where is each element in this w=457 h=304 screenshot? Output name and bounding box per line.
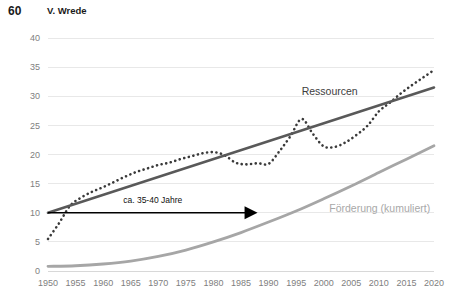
y-tick-label: 10 xyxy=(30,208,40,218)
page-number: 60 xyxy=(8,4,21,18)
y-axis-tick-labels: 0510152025303540 xyxy=(30,33,40,276)
chart-figure: 0510152025303540 19501955196019651970197… xyxy=(0,22,457,304)
annotation-arrowhead xyxy=(245,206,258,219)
series-label-0: Ressourcen xyxy=(302,85,358,97)
y-tick-label: 30 xyxy=(30,91,40,101)
resources-production-line-chart: 0510152025303540 19501955196019651970197… xyxy=(0,22,457,304)
series-inline-labels: RessourcenFörderung (kumuliert) xyxy=(302,85,431,214)
x-tick-label: 1980 xyxy=(203,278,223,288)
y-tick-label: 25 xyxy=(30,121,40,131)
x-tick-label: 1975 xyxy=(176,278,196,288)
y-tick-label: 0 xyxy=(35,266,40,276)
running-head: V. Wrede xyxy=(47,5,87,16)
x-tick-label: 2010 xyxy=(369,278,389,288)
y-tick-label: 20 xyxy=(30,150,40,160)
y-tick-label: 40 xyxy=(30,33,40,43)
x-tick-label: 1990 xyxy=(259,278,279,288)
annotation-label: ca. 35-40 Jahre xyxy=(123,195,182,205)
x-tick-label: 2015 xyxy=(396,278,416,288)
x-tick-label: 1950 xyxy=(38,278,58,288)
x-tick-label: 1955 xyxy=(66,278,86,288)
data-series xyxy=(48,70,434,266)
x-tick-label: 1960 xyxy=(93,278,113,288)
x-tick-label: 2020 xyxy=(424,278,444,288)
x-tick-label: 1970 xyxy=(148,278,168,288)
x-tick-label: 2005 xyxy=(341,278,361,288)
series-path-1 xyxy=(48,88,434,213)
x-axis-tick-labels: 1950195519601965197019751980198519901995… xyxy=(38,278,444,288)
gridlines xyxy=(48,38,434,271)
x-tick-label: 1965 xyxy=(121,278,141,288)
x-tick-label: 2000 xyxy=(314,278,334,288)
y-tick-label: 35 xyxy=(30,62,40,72)
y-tick-label: 5 xyxy=(35,237,40,247)
x-tick-label: 1985 xyxy=(231,278,251,288)
y-tick-label: 15 xyxy=(30,179,40,189)
series-label-2: Förderung (kumuliert) xyxy=(329,202,430,214)
x-tick-label: 1995 xyxy=(286,278,306,288)
